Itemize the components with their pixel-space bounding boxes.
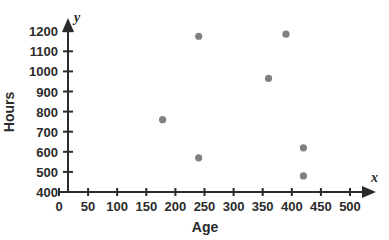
y-tick-label-1200: 1200 [29,24,58,39]
x-tick-label-400: 400 [281,199,303,214]
y-tick-label-700: 700 [36,125,58,140]
y-axis-tick-labels: 400500600700800900100011001200 [29,24,58,200]
y-tick-label-600: 600 [36,145,58,160]
x-tick-label-0: 0 [55,199,62,214]
x-tick-label-500: 500 [339,199,361,214]
data-point [195,33,202,40]
x-axis-tick-labels: 050100150200250300350400450500 [55,199,360,214]
x-axis-title: Age [192,219,219,235]
x-tick-label-150: 150 [135,199,157,214]
data-point [300,144,307,151]
x-tick-label-300: 300 [223,199,245,214]
y-tick-label-1000: 1000 [29,64,58,79]
y-tick-label-400: 400 [36,185,58,200]
y-tick-label-900: 900 [36,85,58,100]
chart-canvas: 400500600700800900100011001200 050100150… [0,0,389,240]
x-tick-label-350: 350 [252,199,274,214]
data-point [282,31,289,38]
y-tick-label-800: 800 [36,105,58,120]
y-tick-label-500: 500 [36,165,58,180]
x-tick-label-250: 250 [194,199,216,214]
data-point [300,172,307,179]
data-point [159,116,166,123]
data-point-series [159,31,307,180]
x-tick-label-450: 450 [310,199,332,214]
y-axis-title: Hours [1,92,17,133]
x-axis-variable-label: x [370,170,378,185]
x-tick-label-200: 200 [165,199,187,214]
scatter-chart: 400500600700800900100011001200 050100150… [0,0,389,240]
y-axis-variable-label: y [72,10,81,25]
data-point [195,154,202,161]
x-tick-label-50: 50 [81,199,95,214]
x-tick-label-100: 100 [106,199,128,214]
data-point [265,75,272,82]
y-tick-label-1100: 1100 [30,44,58,59]
